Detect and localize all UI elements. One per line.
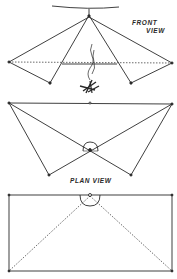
plan-right-side xyxy=(131,104,172,175)
plan-stake-bottom-left xyxy=(48,174,50,176)
front-line-right-inner xyxy=(90,17,131,83)
smoke xyxy=(88,44,93,80)
front-view-label-line1: FRONT xyxy=(132,19,158,26)
plan-top-center-point xyxy=(89,102,91,104)
stake-right xyxy=(171,62,173,64)
front-line-left-inner xyxy=(50,17,88,83)
ground-dashed-left xyxy=(9,196,90,271)
plan-left-side xyxy=(9,103,49,175)
campfire-icon xyxy=(80,44,99,93)
front-view-label-line2: VIEW xyxy=(146,27,165,34)
ground-dashed-right xyxy=(90,196,172,271)
plan-view xyxy=(8,102,173,176)
stake-lower-left xyxy=(49,82,51,84)
front-line-left-corner xyxy=(9,17,89,62)
stake-left xyxy=(8,61,10,63)
ground-corner-top-left xyxy=(8,194,10,196)
plan-stake-top-right xyxy=(171,103,173,105)
plan-stake-top-left xyxy=(8,102,10,104)
ground-plan xyxy=(8,194,173,273)
plan-right-cross xyxy=(49,104,172,175)
front-line-right-corner xyxy=(89,17,172,63)
plan-view-label: PLAN VIEW xyxy=(70,177,112,184)
front-view xyxy=(8,6,173,84)
front-dashed-baseline xyxy=(9,62,172,63)
front-line-left-base xyxy=(9,62,50,83)
ridge-pole xyxy=(52,6,119,8)
stake-lower-right xyxy=(130,82,132,84)
front-line-right-base xyxy=(131,63,172,83)
plan-left-cross xyxy=(9,103,131,175)
apex-point xyxy=(88,15,90,17)
plan-stake-bottom-right xyxy=(130,174,132,176)
tent-diagram: FRONT VIEW PLAN VIEW xyxy=(0,0,177,279)
ground-corner-top-right xyxy=(171,194,173,196)
ground-corner-bottom-left xyxy=(8,270,10,272)
plan-center-pole xyxy=(89,149,92,152)
ground-corner-bottom-right xyxy=(171,270,173,272)
